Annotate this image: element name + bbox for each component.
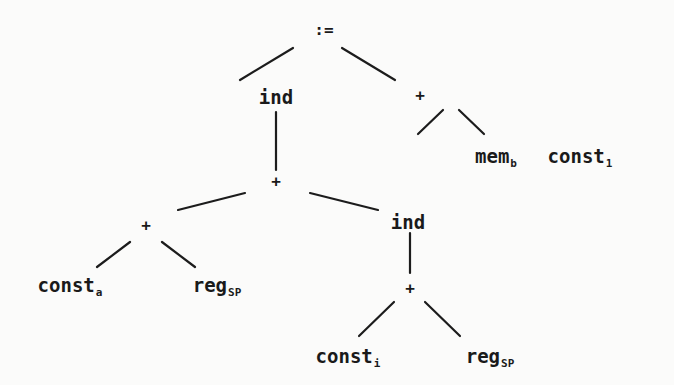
edge-assign-to-ind-left <box>240 48 293 80</box>
node-label: reg <box>466 345 500 367</box>
node-reg-sp-left: regSP <box>193 276 242 298</box>
node-plus-mid: + <box>271 174 281 190</box>
node-const-1: const1 <box>548 147 613 169</box>
node-subscript: 1 <box>606 157 613 170</box>
tree-edges <box>0 0 674 385</box>
node-label: const <box>316 345 373 367</box>
node-label: ind <box>391 211 425 233</box>
node-label: reg <box>193 274 227 296</box>
edge-assign-to-plus-right <box>342 48 395 80</box>
node-label: const <box>38 274 95 296</box>
edge-plus-low-left-to-reg-sp-left <box>162 242 195 267</box>
edge-plus-bottom-to-reg-sp-right <box>425 302 460 336</box>
edge-plus-low-left-to-const-a <box>97 242 130 267</box>
node-assign: := <box>314 22 333 38</box>
node-label: + <box>415 86 425 105</box>
node-ind-left: ind <box>259 88 293 107</box>
edge-plus-mid-to-ind-right <box>310 193 378 210</box>
node-mem-b: memb <box>475 147 517 169</box>
node-subscript: b <box>510 157 517 170</box>
node-plus-low-left: + <box>141 218 151 234</box>
node-subscript: SP <box>228 286 241 299</box>
node-subscript: i <box>374 357 381 370</box>
node-label: const <box>548 145 605 167</box>
node-label: mem <box>475 145 509 167</box>
node-plus-bottom: + <box>405 281 415 297</box>
node-subscript: SP <box>501 357 514 370</box>
node-subscript: a <box>96 286 103 299</box>
edge-plus-right-to-const-1 <box>459 110 484 134</box>
edge-plus-right-to-mem-b <box>418 110 443 134</box>
node-const-i: consti <box>316 347 381 369</box>
edge-plus-mid-to-plus-low-left <box>178 193 245 210</box>
node-label: := <box>314 20 333 39</box>
node-const-a: consta <box>38 276 103 298</box>
node-plus-right: + <box>415 88 425 104</box>
node-label: + <box>405 279 415 298</box>
node-label: + <box>141 216 151 235</box>
node-ind-right: ind <box>391 213 425 232</box>
node-label: ind <box>259 86 293 108</box>
node-label: + <box>271 172 281 191</box>
edge-plus-bottom-to-const-i <box>359 302 394 336</box>
node-reg-sp-right: regSP <box>466 347 515 369</box>
